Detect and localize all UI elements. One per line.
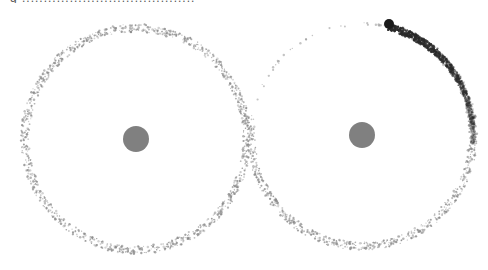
- orbit-diagram: [0, 0, 488, 270]
- orbiting-body: [384, 19, 394, 29]
- right-orbit-system: [247, 19, 479, 251]
- left-orbit-system: [20, 23, 252, 255]
- right-central-body: [349, 122, 375, 148]
- orbit-trail: [387, 23, 476, 145]
- left-central-body: [123, 126, 149, 152]
